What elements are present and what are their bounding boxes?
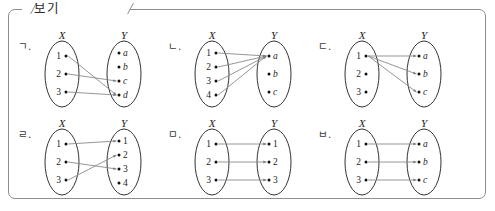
codomain-element-label: 1 <box>123 136 128 146</box>
codomain-element-dot <box>118 182 121 185</box>
codomain-element-dot <box>268 161 271 164</box>
domain-element-label: 1 <box>206 48 211 58</box>
domain-element-dot <box>65 91 68 94</box>
codomain-element-dot <box>118 154 121 157</box>
diagram-canvas: XY1231234 <box>34 112 168 200</box>
figure-canvas: 보기 ㄱ.XY123abcdㄴ.XY1234abcㄷ.XY123abcㄹ.XY1… <box>0 0 495 211</box>
domain-element-dot <box>215 66 218 69</box>
codomain-element-label: b <box>273 69 278 79</box>
codomain-element-dot <box>118 168 121 171</box>
codomain-element-label: 1 <box>273 139 278 149</box>
codomain-element-label: b <box>123 62 128 72</box>
codomain-element-label: c <box>423 175 428 185</box>
codomain-element-label: c <box>423 87 428 97</box>
codomain-element-label: 2 <box>123 150 128 160</box>
domain-element-label: 4 <box>206 90 211 100</box>
codomain-element-dot <box>118 94 121 97</box>
codomain-element-dot <box>268 179 271 182</box>
codomain-element-dot <box>268 91 271 94</box>
codomain-element-label: b <box>423 157 428 167</box>
domain-element-label: 3 <box>56 87 61 97</box>
mapping-diagram-5: ㅁ.XY123123 <box>168 112 318 200</box>
domain-element-dot <box>65 179 68 182</box>
diagram-canvas: XY1234abc <box>184 24 318 112</box>
diagram-canvas: XY123abc <box>334 24 468 112</box>
diagram-item-label: ㄱ. <box>18 38 31 53</box>
mapping-diagram-2: ㄴ.XY1234abc <box>168 24 318 112</box>
domain-element-label: 3 <box>356 175 361 185</box>
mapping-diagram-3: ㄷ.XY123abc <box>318 24 468 112</box>
codomain-element-dot <box>268 55 271 58</box>
domain-element-dot <box>215 52 218 55</box>
codomain-element-label: b <box>423 69 428 79</box>
domain-element-dot <box>365 91 368 94</box>
codomain-element-dot <box>118 140 121 143</box>
domain-element-label: 1 <box>206 139 211 149</box>
codomain-element-label: 3 <box>123 164 128 174</box>
codomain-element-dot <box>418 91 421 94</box>
domain-element-label: 1 <box>56 139 61 149</box>
domain-set-name: X <box>208 29 217 41</box>
domain-element-dot <box>215 179 218 182</box>
codomain-element-dot <box>418 73 421 76</box>
codomain-element-dot <box>418 179 421 182</box>
domain-element-dot <box>65 143 68 146</box>
codomain-element-label: 2 <box>273 157 278 167</box>
mapping-arrow <box>218 161 266 164</box>
domain-element-label: 2 <box>206 157 211 167</box>
mapping-arrow <box>68 162 116 170</box>
mapping-diagram-1: ㄱ.XY123abcd <box>18 24 168 112</box>
domain-element-label: 2 <box>356 69 361 79</box>
domain-set-oval <box>45 41 79 107</box>
diagram-item-label: ㄷ. <box>318 38 331 53</box>
codomain-set-name: Y <box>421 117 429 129</box>
domain-element-dot <box>215 80 218 83</box>
mapping-diagram-6: ㅂ.XY123abc <box>318 112 468 200</box>
domain-element-dot <box>215 94 218 97</box>
domain-set-oval <box>45 129 79 195</box>
domain-element-dot <box>365 161 368 164</box>
domain-element-dot <box>365 179 368 182</box>
domain-element-dot <box>65 161 68 164</box>
diagram-item-label: ㄹ. <box>18 126 31 141</box>
codomain-element-dot <box>418 55 421 58</box>
codomain-element-label: c <box>123 76 128 86</box>
codomain-element-dot <box>268 143 271 146</box>
diagram-canvas: XY123123 <box>184 112 318 200</box>
diagram-item-label: ㅂ. <box>318 126 331 141</box>
codomain-element-label: 4 <box>123 178 128 188</box>
codomain-element-dot <box>118 80 121 83</box>
domain-set-oval <box>195 41 229 107</box>
codomain-set-name: Y <box>271 29 279 41</box>
codomain-element-label: d <box>123 90 128 100</box>
codomain-element-label: c <box>273 87 278 97</box>
codomain-element-label: a <box>273 51 278 61</box>
codomain-element-dot <box>118 52 121 55</box>
codomain-set-name: Y <box>271 117 279 129</box>
domain-set-oval <box>345 41 379 107</box>
domain-element-label: 2 <box>206 62 211 72</box>
domain-set-name: X <box>358 117 367 129</box>
codomain-element-dot <box>268 73 271 76</box>
codomain-set-name: Y <box>121 117 129 129</box>
codomain-element-label: a <box>123 48 128 58</box>
domain-element-dot <box>65 55 68 58</box>
mapping-diagram-4: ㄹ.XY1231234 <box>18 112 168 200</box>
domain-element-label: 2 <box>356 157 361 167</box>
mapping-arrow <box>368 161 416 164</box>
diagram-canvas: XY123abc <box>334 112 468 200</box>
codomain-element-dot <box>418 161 421 164</box>
domain-element-dot <box>215 161 218 164</box>
codomain-element-label: 3 <box>273 175 278 185</box>
domain-element-dot <box>365 55 368 58</box>
diagram-item-label: ㄴ. <box>168 38 181 53</box>
codomain-element-dot <box>118 66 121 69</box>
domain-element-label: 3 <box>356 87 361 97</box>
domain-element-label: 1 <box>56 51 61 61</box>
mapping-arrow <box>368 56 416 92</box>
codomain-element-label: a <box>423 51 428 61</box>
domain-set-name: X <box>58 117 67 129</box>
domain-element-label: 1 <box>356 139 361 149</box>
codomain-set-name: Y <box>421 29 429 41</box>
domain-element-dot <box>365 73 368 76</box>
